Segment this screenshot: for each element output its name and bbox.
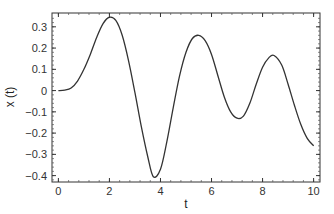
y-tick-label: −0.3: [25, 148, 47, 160]
y-tick-label: 0.2: [32, 42, 47, 54]
y-tick-label: 0: [41, 85, 47, 97]
x-tick-label: 10: [307, 185, 319, 197]
line-chart: 0246810 0.30.20.10−0.1−0.2−0.3−0.4 t x (…: [0, 0, 334, 214]
plot-frame: [52, 13, 320, 182]
y-tick-label: −0.4: [25, 170, 47, 182]
y-axis-label: x (t): [3, 87, 17, 108]
series-line-x-t: [58, 17, 313, 177]
minor-ticks: [52, 13, 320, 182]
x-tick-label: 6: [208, 185, 214, 197]
x-tick-label: 4: [157, 185, 163, 197]
y-axis-ticks: 0.30.20.10−0.1−0.2−0.3−0.4: [25, 21, 320, 182]
y-tick-label: 0.1: [32, 63, 47, 75]
x-tick-label: 2: [106, 185, 112, 197]
x-tick-label: 8: [260, 185, 266, 197]
y-tick-label: 0.3: [32, 21, 47, 33]
x-tick-label: 0: [55, 185, 61, 197]
y-tick-label: −0.1: [25, 106, 47, 118]
x-axis-label: t: [184, 197, 188, 211]
y-tick-label: −0.2: [25, 127, 47, 139]
